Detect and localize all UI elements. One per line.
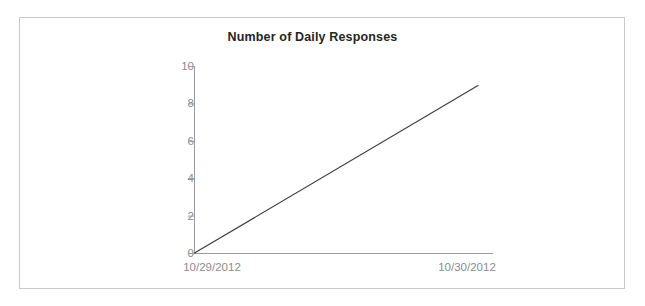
x-axis-tick-label-start: 10/29/2012 <box>152 261 272 274</box>
chart-screenshot: Number of Daily Responses 10 8 6 4 2 0 <box>0 0 645 306</box>
data-line-number-of-daily-responses <box>195 86 479 253</box>
chart-card: Number of Daily Responses 10 8 6 4 2 0 <box>19 17 625 289</box>
x-axis-tick-label-end: 10/30/2012 <box>407 261 527 274</box>
plot-area: 10 8 6 4 2 0 <box>20 18 626 290</box>
chart-svg <box>20 18 626 290</box>
